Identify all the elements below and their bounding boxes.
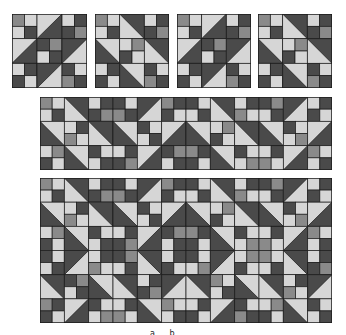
quilt-block-4 xyxy=(258,14,332,88)
caption-fragment: a b xyxy=(150,326,210,335)
quilt-full-quilt xyxy=(40,178,332,323)
quilt-block-3 xyxy=(177,14,251,88)
quilt-block-1 xyxy=(12,14,87,88)
quilt-block-2 xyxy=(95,14,169,88)
quilt-row-quilt xyxy=(40,97,332,170)
